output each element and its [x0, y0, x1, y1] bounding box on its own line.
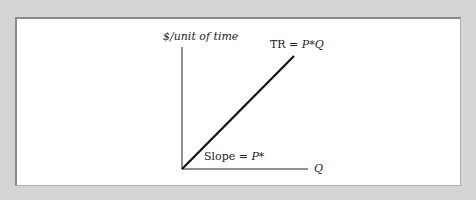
slope-prefix: Slope =: [204, 150, 251, 163]
tr-var: P*Q: [302, 38, 324, 51]
tr-prefix: TR =: [270, 38, 302, 51]
slope-label: Slope = P*: [204, 150, 264, 163]
x-axis-label: Q: [314, 162, 323, 175]
total-revenue-label: TR = P*Q: [270, 38, 324, 51]
slope-var: P*: [251, 150, 264, 163]
y-axis-label: $/unit of time: [163, 30, 238, 43]
